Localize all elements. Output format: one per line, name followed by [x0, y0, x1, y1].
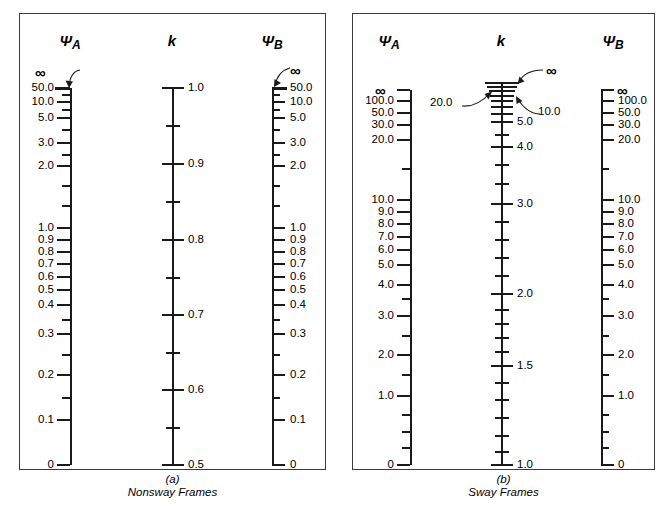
tick-mark [601, 447, 609, 449]
psi-symbol: Ψ [261, 32, 273, 49]
tick-mark [601, 298, 609, 300]
tick-mark [57, 101, 70, 103]
tick-mark [62, 205, 70, 207]
tick-mark [491, 203, 513, 205]
psi-symbol: Ψ [602, 32, 614, 49]
tick-mark [162, 464, 184, 466]
tick-mark [162, 87, 184, 89]
tick-mark [272, 142, 285, 144]
tick-mark [485, 82, 519, 84]
tick-mark [397, 354, 410, 356]
tick-label: 8.0 [618, 218, 666, 230]
tick-mark [601, 354, 614, 356]
tick-mark [272, 227, 285, 229]
psi-subscript: B [274, 38, 283, 52]
tick-label: 5.0 [618, 259, 666, 271]
tick-mark [397, 264, 410, 266]
tick-mark [272, 304, 285, 306]
tick-mark [402, 335, 410, 337]
tick-mark [601, 211, 614, 213]
tick-mark [57, 165, 70, 167]
tick-mark [397, 124, 410, 126]
tick-mark [62, 185, 70, 187]
psi-subscript: A [391, 38, 400, 52]
tick-mark [57, 251, 70, 253]
tick-label: 0.8 [14, 246, 54, 258]
tick-label: 7.0 [346, 231, 394, 243]
tick-label: 0.3 [14, 328, 54, 340]
figure-a-psi-a-header: ΨA [59, 32, 80, 52]
tick-mark [272, 239, 285, 241]
tick-mark [272, 333, 285, 335]
tick-mark [62, 354, 70, 356]
tick-mark [62, 319, 70, 321]
tick-mark [272, 419, 285, 421]
tick-mark [491, 464, 513, 466]
tick-mark [601, 100, 614, 102]
tick-label: 9.0 [618, 206, 666, 218]
figure-a-psi-b-header: ΨB [261, 32, 282, 52]
tick-mark [601, 464, 614, 466]
tick-mark [601, 395, 614, 397]
tick-label: 30.0 [618, 119, 666, 131]
tick-label: 10.0 [346, 194, 394, 206]
tick-label: 50.0 [14, 82, 54, 94]
tick-label: 5.0 [517, 116, 557, 128]
tick-mark [397, 464, 410, 466]
tick-label: 0.5 [290, 284, 330, 296]
tick-mark [397, 199, 410, 201]
tick-mark [272, 165, 285, 167]
psi-symbol: Ψ [59, 32, 71, 49]
k-symbol: k [497, 32, 505, 49]
caption-letter: (a) [19, 473, 326, 486]
tick-mark [601, 168, 609, 170]
tick-mark [402, 414, 410, 416]
tick-label: 6.0 [346, 244, 394, 256]
psi-subscript: A [72, 38, 81, 52]
tick-mark [495, 435, 509, 437]
tick-mark [272, 94, 280, 96]
tick-label: 0.3 [290, 328, 330, 340]
tick-label: 0.8 [188, 234, 228, 246]
tick-mark [601, 335, 609, 337]
tick-mark [272, 109, 280, 111]
tick-mark [495, 134, 509, 136]
tick-mark [397, 236, 410, 238]
tick-mark [62, 129, 70, 131]
figure-b-psi-a-header: ΨA [378, 32, 399, 52]
tick-mark [57, 142, 70, 144]
tick-mark [601, 315, 614, 317]
tick-mark [495, 323, 509, 325]
tick-label: 0.1 [290, 414, 330, 426]
tick-mark [397, 112, 410, 114]
tick-mark [166, 125, 180, 127]
tick-mark [491, 121, 513, 123]
tick-label: 3.0 [618, 310, 666, 322]
tick-mark [397, 139, 410, 141]
figure-a-caption: (a) Nonsway Frames [19, 473, 326, 499]
tick-mark [62, 109, 70, 111]
tick-mark [397, 315, 410, 317]
tick-mark [62, 154, 70, 156]
tick-mark [601, 431, 609, 433]
tick-mark [491, 293, 513, 295]
tick-mark [601, 112, 614, 114]
tick-label: 4.0 [618, 279, 666, 291]
tick-mark [272, 354, 280, 356]
tick-label: 0 [290, 459, 330, 471]
tick-label: 0.1 [14, 414, 54, 426]
tick-label: 100.0 [618, 95, 666, 107]
tick-mark [491, 100, 513, 102]
tick-label: 9.0 [346, 206, 394, 218]
tick-label: 1.0 [188, 82, 228, 94]
caption-letter: (b) [352, 473, 655, 486]
tick-mark [491, 106, 513, 108]
tick-mark [166, 427, 180, 429]
tick-mark [495, 164, 509, 166]
k-annotation-20: 20.0 [430, 97, 452, 109]
tick-label: 5.0 [14, 112, 54, 124]
tick-label: 5.0 [290, 112, 330, 124]
tick-mark [272, 263, 285, 265]
tick-mark [162, 239, 184, 241]
tick-label: 3.0 [14, 137, 54, 149]
